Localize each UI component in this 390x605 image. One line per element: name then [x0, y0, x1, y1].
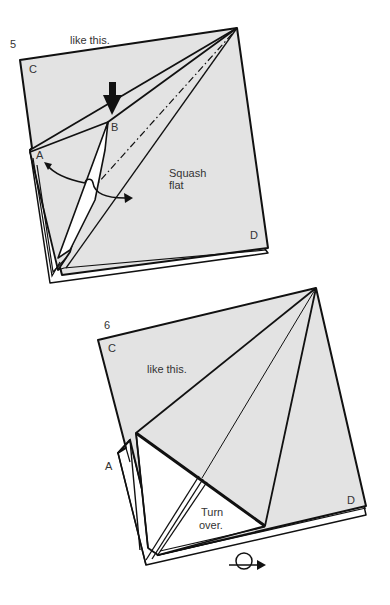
origami-diagram: 5 like this. C B A Squash flat D [0, 0, 390, 605]
step-6: 6 C like this. A Turn over. D [98, 288, 366, 570]
step5-instruction-1: Squash [169, 167, 206, 179]
turn-over-icon [229, 553, 266, 570]
step5-number: 5 [10, 38, 16, 50]
step6-label-d: D [347, 494, 355, 506]
step6-number: 6 [104, 319, 110, 331]
step5-label-b: B [111, 121, 118, 133]
step-5: 5 like this. C B A Squash flat D [10, 28, 268, 283]
step6-instruction-2: over. [199, 519, 223, 531]
step6-label-a: A [105, 460, 113, 472]
step6-caption: like this. [147, 363, 187, 375]
step5-label-a: A [36, 149, 44, 161]
step5-label-d: D [250, 229, 258, 241]
step5-caption: like this. [70, 34, 110, 46]
step5-label-c: C [29, 63, 37, 75]
step6-instruction-1: Turn [201, 506, 223, 518]
step6-label-c: C [108, 342, 116, 354]
step5-instruction-2: flat [169, 179, 184, 191]
